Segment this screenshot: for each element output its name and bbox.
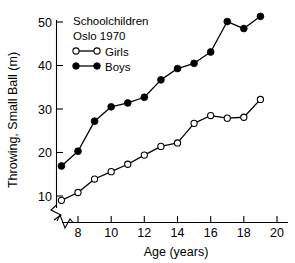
- girls-point: [58, 197, 64, 203]
- y-tick-label-40: 40: [38, 59, 52, 73]
- girls-point: [174, 140, 180, 146]
- axis-break-marks: [51, 205, 73, 228]
- girls-point: [208, 112, 214, 118]
- girls-point: [91, 176, 97, 182]
- x-axis-title: Age (years): [144, 245, 209, 259]
- y-axis-title: Throwing, Small Ball (m): [6, 52, 20, 188]
- girls-point: [224, 115, 230, 121]
- legend-open-circle-icon: [73, 48, 79, 54]
- boys-point: [141, 94, 148, 101]
- legend-annotation-schoolchildren: Schoolchildren: [73, 15, 148, 27]
- legend-label-girls: Girls: [105, 46, 129, 58]
- legend-filled-circle-icon: [94, 63, 101, 70]
- boys-point: [124, 100, 131, 107]
- girls-point: [191, 120, 197, 126]
- x-tick-label-14: 14: [171, 226, 185, 240]
- x-tick-label-20: 20: [270, 226, 284, 240]
- x-tick-label-16: 16: [204, 226, 218, 240]
- boys-point: [191, 60, 198, 67]
- x-tick-label-12: 12: [137, 226, 151, 240]
- chart-figure: 50 40 30 20 10 8 10 12 14 16 18 20 Age: [0, 0, 295, 263]
- legend-open-circle-icon: [94, 48, 100, 54]
- x-tick-label-8: 8: [75, 226, 82, 240]
- y-tick-label-30: 30: [38, 103, 52, 117]
- girls-point: [108, 169, 114, 175]
- girls-point: [125, 161, 131, 167]
- boys-point: [224, 18, 231, 25]
- legend-label-boys: Boys: [105, 61, 131, 73]
- y-tick-label-10: 10: [38, 190, 52, 204]
- legend-entry-girls: Girls: [73, 46, 129, 58]
- y-tick-label-20: 20: [38, 146, 52, 160]
- y-axis-tick-labels: 50 40 30 20 10: [38, 16, 52, 204]
- boys-point: [240, 25, 247, 32]
- legend: Schoolchildren Oslo 1970 Girls Boys: [73, 15, 149, 73]
- girls-markers: [58, 96, 263, 203]
- legend-annotation-oslo-1970: Oslo 1970: [73, 30, 125, 42]
- girls-point: [158, 143, 164, 149]
- x-tick-label-18: 18: [237, 226, 251, 240]
- boys-point: [174, 65, 181, 72]
- x-axis-tick-labels: 8 10 12 14 16 18 20: [75, 226, 284, 240]
- boys-point: [91, 118, 98, 125]
- throwing-small-ball-line-chart: 50 40 30 20 10 8 10 12 14 16 18 20 Age: [0, 0, 295, 263]
- y-tick-label-50: 50: [38, 16, 52, 30]
- girls-point: [75, 189, 81, 195]
- girls-point: [257, 96, 263, 102]
- boys-point: [75, 148, 82, 155]
- y-axis-ticks: [57, 22, 64, 196]
- x-axis-ticks: [78, 216, 277, 223]
- x-tick-label-10: 10: [104, 226, 118, 240]
- x-axis-break-icon: [57, 215, 73, 228]
- boys-point: [158, 76, 165, 83]
- girls-point: [141, 152, 147, 158]
- boys-point: [207, 49, 214, 56]
- boys-point: [257, 13, 264, 20]
- boys-point: [108, 103, 115, 110]
- series-girls: [58, 96, 263, 203]
- girls-point: [241, 114, 247, 120]
- legend-filled-circle-icon: [73, 63, 80, 70]
- boys-point: [58, 163, 65, 170]
- legend-entry-boys: Boys: [73, 61, 131, 73]
